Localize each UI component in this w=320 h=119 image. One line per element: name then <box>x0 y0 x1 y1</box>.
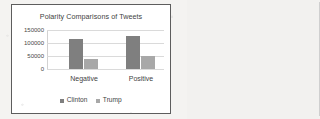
legend-label-clinton: Clinton <box>67 97 88 104</box>
legend-swatch-icon-trump <box>96 99 100 103</box>
gridline-100000 <box>47 43 164 44</box>
bar-clinton-negative[interactable] <box>69 39 83 69</box>
y-tick-label-150000: 150000 <box>24 27 44 33</box>
y-tick-label-50000: 50000 <box>27 53 44 59</box>
y-tick-label-0: 0 <box>41 66 44 72</box>
gridline-0 <box>47 69 164 70</box>
category-label-positive: Positive <box>129 75 154 82</box>
y-axis-line <box>47 30 48 70</box>
bar-trump-positive[interactable] <box>141 56 155 69</box>
bar-clinton-positive[interactable] <box>126 36 140 69</box>
bar-trump-negative[interactable] <box>84 59 98 69</box>
chart-title: Polarity Comparisons of Tweets <box>12 12 170 21</box>
legend-swatch-icon-clinton <box>60 99 64 103</box>
y-tick-label-100000: 100000 <box>24 40 44 46</box>
chart-container[interactable]: Polarity Comparisons of Tweets 150000 10… <box>11 4 171 114</box>
chart-legend: Clinton Trump <box>12 97 170 104</box>
legend-label-trump: Trump <box>103 97 122 104</box>
category-label-negative: Negative <box>70 75 98 82</box>
legend-item-trump[interactable]: Trump <box>96 97 121 104</box>
plot-area: 150000 100000 50000 0 Negative Positive <box>47 30 164 70</box>
gridline-150000 <box>47 30 164 31</box>
legend-item-clinton[interactable]: Clinton <box>60 97 87 104</box>
